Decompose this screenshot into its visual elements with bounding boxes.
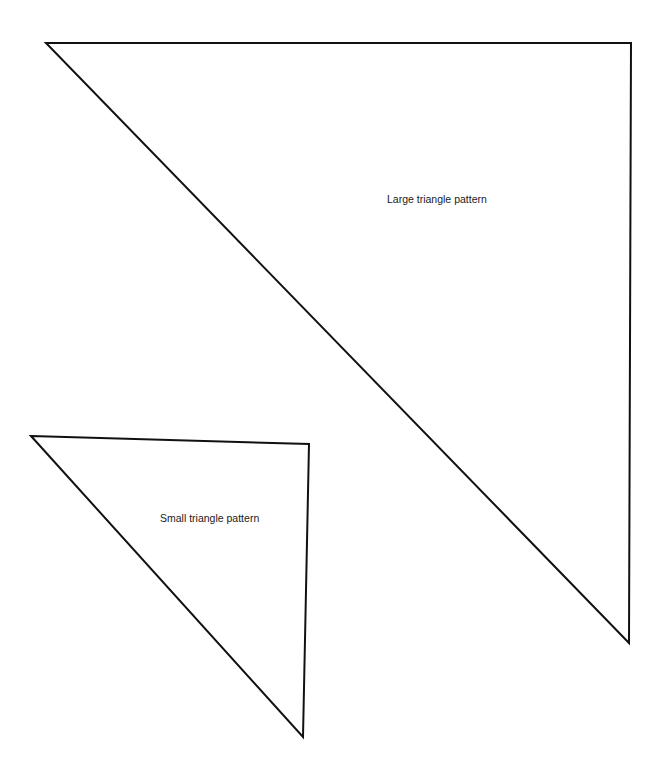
small-triangle-outline: [31, 436, 309, 737]
small-triangle-label: Small triangle pattern: [160, 512, 259, 524]
large-triangle-outline: [46, 43, 631, 643]
large-triangle-label: Large triangle pattern: [387, 193, 487, 205]
pattern-diagram: [0, 0, 670, 775]
